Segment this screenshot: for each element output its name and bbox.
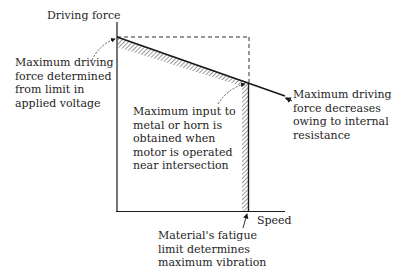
x-axis-label: Speed xyxy=(257,214,292,228)
y-axis-label: Driving force xyxy=(47,9,121,23)
leader-max-input xyxy=(218,84,245,104)
annotation-fatigue-limit: Material's fatigue limit determines maxi… xyxy=(158,229,266,270)
annotation-max-input: Maximum input to metal or horn is obtain… xyxy=(133,105,236,173)
annotation-internal-resistance: Maximum driving force decreases owing to… xyxy=(293,88,392,142)
fatigue-hatch-bar xyxy=(242,84,249,211)
leader-fatigue-limit xyxy=(243,214,247,228)
driving-force-line xyxy=(117,37,285,96)
annotation-voltage-limit: Maximum driving force determined from li… xyxy=(15,56,114,110)
